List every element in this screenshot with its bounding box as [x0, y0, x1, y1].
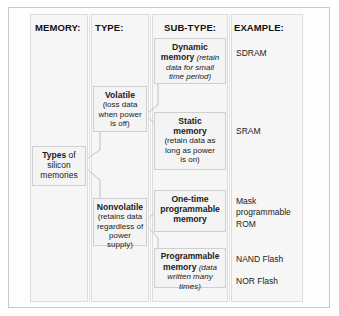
static-detail-3: is on) — [157, 155, 223, 164]
onetime-bold-2: programmable — [160, 204, 220, 214]
node-subtype-static-memory: Static memory (retain data as long as po… — [154, 112, 226, 170]
programmable-bold-1: Programmable — [161, 251, 220, 261]
column-rule-2 — [150, 14, 151, 302]
node-type-nonvolatile: Nonvolatile (retains data regardless of … — [93, 198, 147, 246]
header-memory: MEMORY: — [35, 22, 81, 33]
example-mask-rom-line-3: ROM — [236, 219, 291, 230]
example-mask-rom-line-2: programmable — [236, 207, 291, 218]
programmable-detail-inline: (data — [196, 263, 216, 272]
example-sdram-line-1: SDRAM — [236, 48, 267, 59]
onetime-bold-1: One-time — [171, 194, 208, 204]
example-nor-flash-line-1: NOR Flash — [236, 276, 278, 287]
header-type: TYPE: — [95, 22, 123, 33]
example-mask-programmable-rom: Mask programmable ROM — [236, 196, 291, 230]
example-sram: SRAM — [236, 126, 261, 137]
node-root-types-of-silicon-memories: Types of silicon memories — [32, 146, 86, 186]
static-detail-2: long as power — [157, 146, 223, 155]
volatile-detail-3: is off) — [96, 119, 144, 128]
static-bold-2: memory — [173, 126, 206, 136]
example-nand-flash-line-1: NAND Flash — [236, 254, 283, 265]
volatile-detail-2: when power — [96, 110, 144, 119]
node-type-volatile: Volatile (loss data when power is off) — [93, 86, 147, 132]
column-rule-1 — [89, 14, 90, 302]
node-subtype-programmable-memory: Programmable memory (data written many t… — [154, 248, 226, 288]
root-line3: memories — [35, 170, 83, 180]
root-line2: silicon — [35, 160, 83, 170]
programmable-bold-2: memory — [163, 262, 196, 272]
nonvolatile-detail-2: regardless of — [96, 222, 144, 231]
dynamic-detail-inline: (retain — [194, 53, 219, 62]
example-sdram: SDRAM — [236, 48, 267, 59]
volatile-bold-label: Volatile — [105, 90, 135, 100]
volatile-detail-1: (loss data — [96, 100, 144, 109]
programmable-detail-1: written many times) — [157, 272, 223, 291]
dynamic-detail-1: data for small — [157, 63, 223, 72]
root-rest-label: of — [66, 150, 75, 160]
example-mask-rom-line-1: Mask — [236, 196, 291, 207]
nonvolatile-bold-label: Nonvolatile — [97, 202, 143, 212]
column-rule-3 — [229, 14, 230, 302]
nonvolatile-detail-1: (retains data — [96, 212, 144, 221]
dynamic-bold-1: Dynamic — [172, 42, 208, 52]
node-subtype-one-time-programmable-memory: One-time programmable memory — [154, 190, 226, 232]
dynamic-detail-2: time period) — [157, 72, 223, 81]
dynamic-bold-2: memory — [161, 52, 194, 62]
example-nor-flash: NOR Flash — [236, 276, 278, 287]
memory-classification-diagram: MEMORY: TYPE: SUB-TYPE: EXAMPLE: Types o… — [0, 0, 339, 316]
root-bold-label: Types — [42, 150, 66, 160]
node-subtype-dynamic-memory: Dynamic memory (retain data for small ti… — [154, 38, 226, 84]
onetime-bold-3: memory — [173, 214, 206, 224]
example-sram-line-1: SRAM — [236, 126, 261, 137]
nonvolatile-detail-3: power supply) — [96, 231, 144, 250]
header-subtype: SUB-TYPE: — [164, 22, 216, 33]
static-detail-1: (retain data as — [157, 136, 223, 145]
static-bold-1: Static — [178, 116, 201, 126]
example-nand-flash: NAND Flash — [236, 254, 283, 265]
column-panel-type — [91, 14, 149, 302]
header-example: EXAMPLE: — [234, 22, 284, 33]
